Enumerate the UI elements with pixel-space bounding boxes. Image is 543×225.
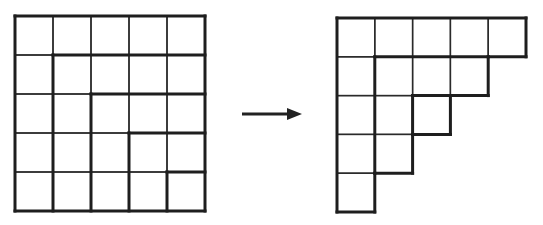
filled-cell — [337, 18, 375, 57]
empty-cell — [91, 55, 129, 94]
filled-cell — [167, 94, 205, 133]
filled-cell — [15, 55, 53, 94]
empty-cell — [129, 172, 167, 211]
filled-cell — [375, 18, 413, 57]
filled-cell — [450, 57, 488, 96]
diagram-canvas — [0, 0, 543, 225]
filled-cell — [413, 18, 451, 57]
filled-cell — [337, 134, 375, 173]
filled-cell — [488, 18, 526, 57]
empty-cell — [167, 133, 205, 172]
empty-cell — [167, 55, 205, 94]
filled-cell — [337, 173, 375, 212]
filled-cell — [337, 57, 375, 96]
empty-cell — [53, 55, 91, 94]
empty-cell — [129, 55, 167, 94]
empty-cell — [53, 94, 91, 133]
filled-cell — [15, 94, 53, 133]
filled-cell — [129, 94, 167, 133]
filled-cell — [15, 16, 53, 55]
arrow-head-icon — [287, 108, 302, 120]
filled-cell — [413, 96, 451, 135]
empty-cell — [129, 133, 167, 172]
filled-cell — [91, 133, 129, 172]
filled-cell — [91, 94, 129, 133]
filled-cell — [450, 18, 488, 57]
filled-cell — [91, 172, 129, 211]
staircase-diagram — [337, 18, 526, 212]
filled-cell — [91, 16, 129, 55]
square-grid-with-hooks — [15, 16, 205, 211]
filled-cell — [375, 134, 413, 173]
filled-cell — [413, 57, 451, 96]
filled-cell — [375, 96, 413, 135]
filled-cell — [15, 133, 53, 172]
filled-cell — [167, 172, 205, 211]
filled-cell — [15, 172, 53, 211]
filled-cell — [337, 96, 375, 135]
filled-cell — [53, 16, 91, 55]
transform-arrow — [242, 108, 302, 120]
filled-cell — [129, 16, 167, 55]
empty-cell — [53, 133, 91, 172]
filled-cell — [375, 57, 413, 96]
filled-cell — [167, 16, 205, 55]
empty-cell — [53, 172, 91, 211]
